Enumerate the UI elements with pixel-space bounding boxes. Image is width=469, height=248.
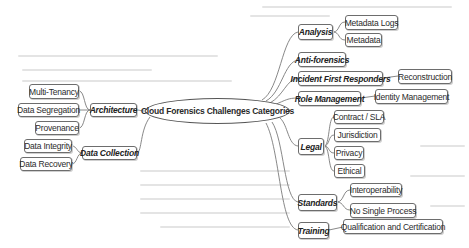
node-contract-sla: Contract / SLA xyxy=(334,110,384,124)
node-data-segregation: Data Segregation xyxy=(18,103,79,117)
category-incident-first-responders: Incident First Responders xyxy=(298,71,383,86)
category-anti-forensics: Anti-forensics xyxy=(298,52,346,67)
node-qualification-certification: Qualification and Certification xyxy=(343,219,443,234)
node-metadata: Metadata xyxy=(345,33,382,47)
node-multi-tenancy: Multi-Tenancy xyxy=(29,84,79,99)
category-training: Training xyxy=(298,222,329,239)
category-architecture: Architecture xyxy=(90,103,137,117)
node-reconstruction: Reconstruction xyxy=(398,69,452,84)
category-data-collection: Data Collection xyxy=(82,146,137,160)
node-data-integrity: Data Integrity xyxy=(24,139,72,153)
node-metadata-logs: Metadata Logs xyxy=(345,15,398,30)
node-ethical: Ethical xyxy=(334,164,365,178)
node-provenance: Provenance xyxy=(35,121,79,135)
node-privacy: Privacy xyxy=(334,146,364,160)
category-standards: Standards xyxy=(298,194,337,211)
node-jurisdiction: Jurisdiction xyxy=(334,128,381,142)
category-analysis: Analysis xyxy=(298,24,333,40)
category-legal: Legal xyxy=(298,138,324,155)
central-topic: Cloud Forensics Challenges Categories xyxy=(145,98,290,124)
node-identity-management: Identity Management xyxy=(375,89,448,104)
node-no-single-process: No Single Process xyxy=(350,203,416,218)
node-interoperability: Interoperability xyxy=(350,183,402,197)
category-role-management: Role Management xyxy=(298,91,361,106)
node-data-recovery: Data Recovery xyxy=(20,157,72,171)
